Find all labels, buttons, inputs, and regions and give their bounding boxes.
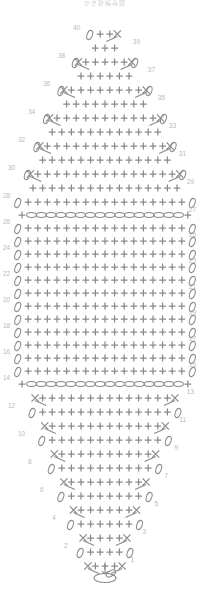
stitch-row	[19, 381, 192, 388]
single-crochet-icon	[130, 199, 137, 206]
single-crochet-icon	[97, 437, 104, 444]
single-crochet-icon	[63, 342, 70, 349]
single-crochet-icon	[87, 395, 94, 402]
stitch-row	[30, 185, 181, 192]
decrease-leg-icon	[121, 65, 132, 70]
chain-stitch-icon	[66, 382, 76, 387]
single-crochet-icon	[73, 251, 80, 258]
row-number-label: 32	[18, 136, 26, 143]
chain-stitch-icon	[36, 382, 46, 387]
single-crochet-icon	[78, 451, 85, 458]
single-crochet-icon	[135, 157, 142, 164]
single-crochet-icon	[49, 129, 56, 136]
single-crochet-icon	[97, 479, 104, 486]
single-crochet-icon	[135, 409, 142, 416]
single-crochet-icon	[73, 342, 80, 349]
single-crochet-icon	[140, 115, 147, 122]
row-number-label: 37	[148, 66, 156, 73]
single-crochet-icon	[63, 303, 70, 310]
single-crochet-icon	[169, 199, 176, 206]
single-crochet-icon	[102, 251, 109, 258]
single-crochet-icon	[54, 225, 61, 232]
row-number-label: 3	[142, 528, 146, 535]
single-crochet-icon	[159, 290, 166, 297]
single-crochet-icon	[73, 277, 80, 284]
chain-stitch-icon	[14, 289, 22, 300]
single-crochet-icon	[130, 303, 137, 310]
chain-stitch-icon	[14, 328, 22, 339]
single-crochet-icon	[44, 290, 51, 297]
single-crochet-icon	[92, 329, 99, 336]
single-crochet-icon	[44, 251, 51, 258]
stitch-row	[60, 478, 149, 489]
single-crochet-icon	[150, 199, 157, 206]
single-crochet-icon	[145, 465, 152, 472]
stitch-row	[14, 237, 197, 248]
single-crochet-icon	[44, 342, 51, 349]
row-number-label: 5	[154, 500, 158, 507]
single-crochet-icon	[97, 73, 104, 80]
single-crochet-icon	[68, 395, 75, 402]
single-crochet-icon	[102, 342, 109, 349]
single-crochet-icon	[150, 316, 157, 323]
chain-stitch-icon	[66, 520, 74, 531]
stitch-row	[14, 250, 197, 261]
chain-stitch-icon	[174, 382, 184, 387]
single-crochet-icon	[126, 521, 133, 528]
single-crochet-icon	[106, 423, 113, 430]
single-crochet-icon	[111, 277, 118, 284]
single-crochet-icon	[159, 329, 166, 336]
single-crochet-icon	[92, 115, 99, 122]
stitch-row	[42, 114, 167, 126]
single-crochet-icon	[92, 290, 99, 297]
single-crochet-icon	[87, 507, 94, 514]
single-crochet-icon	[73, 171, 80, 178]
stitch-row	[33, 142, 177, 154]
single-crochet-icon	[159, 316, 166, 323]
single-crochet-icon	[135, 465, 142, 472]
single-crochet-icon	[121, 238, 128, 245]
row-number-label: 38	[58, 52, 66, 59]
single-crochet-icon	[116, 535, 123, 542]
chain-stitch-icon	[164, 213, 174, 218]
row-number-label: 13	[187, 388, 195, 395]
single-crochet-icon	[102, 143, 109, 150]
single-crochet-icon	[178, 264, 185, 271]
single-crochet-icon	[150, 277, 157, 284]
single-crochet-icon	[111, 115, 118, 122]
single-crochet-icon	[73, 316, 80, 323]
single-crochet-icon	[44, 368, 51, 375]
row-number-label: 24	[3, 244, 11, 251]
stitch-row	[78, 73, 133, 80]
chain-stitch-icon	[134, 213, 144, 218]
single-crochet-icon	[63, 143, 70, 150]
single-crochet-icon	[116, 549, 123, 556]
row-number-label: 40	[73, 24, 81, 31]
single-crochet-icon	[63, 199, 70, 206]
single-crochet-icon	[121, 143, 128, 150]
stitch-row	[41, 422, 169, 433]
chain-stitch-icon	[14, 198, 22, 209]
single-crochet-icon	[78, 409, 85, 416]
row-number-label: 1	[130, 556, 134, 563]
single-crochet-icon	[164, 185, 171, 192]
single-crochet-icon	[159, 264, 166, 271]
single-crochet-icon	[73, 199, 80, 206]
single-crochet-icon	[78, 395, 85, 402]
single-crochet-icon	[68, 493, 75, 500]
single-crochet-icon	[169, 303, 176, 310]
stitch-row	[14, 354, 197, 365]
single-crochet-icon	[116, 395, 123, 402]
chain-stitch-icon	[174, 213, 184, 218]
single-crochet-icon	[34, 329, 41, 336]
decrease-leg-icon	[116, 541, 127, 546]
decrease-x-icon	[80, 534, 87, 541]
single-crochet-icon	[92, 171, 99, 178]
single-crochet-icon	[111, 316, 118, 323]
single-crochet-icon	[126, 185, 133, 192]
single-crochet-icon	[92, 101, 99, 108]
chain-stitch-icon	[134, 382, 144, 387]
single-crochet-icon	[58, 409, 65, 416]
single-crochet-icon	[78, 129, 85, 136]
chain-stitch-icon	[154, 213, 164, 218]
